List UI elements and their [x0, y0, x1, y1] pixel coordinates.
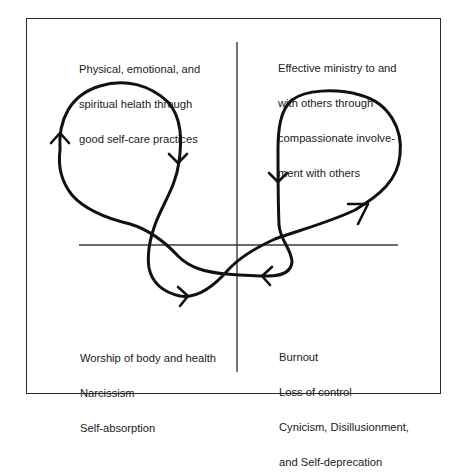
label-line: ment with others — [278, 168, 397, 180]
label-line: with others through — [278, 98, 397, 110]
quadrant-bottom-right-label: Burnout Loss of control Cynicism, Disill… — [279, 329, 409, 472]
label-line: compassionate involve- — [278, 133, 397, 145]
label-line: Burnout — [279, 352, 409, 364]
label-line: Worship of body and health — [80, 353, 216, 365]
label-line: Cynicism, Disillusionment, — [279, 422, 409, 434]
quadrant-top-left-label: Physical, emotional, and spiritual helat… — [79, 41, 200, 157]
label-line: Physical, emotional, and — [79, 64, 200, 76]
label-line: spiritual helath through — [79, 99, 200, 111]
quadrant-bottom-left-label: Worship of body and health Narcissism Se… — [80, 330, 216, 446]
label-line: Loss of control — [279, 387, 409, 399]
label-line: Self-absorption — [80, 423, 216, 435]
label-line: good self-care practices — [79, 134, 200, 146]
label-line: and Self-deprecation — [279, 457, 409, 469]
label-line: Narcissism — [80, 388, 216, 400]
quadrant-top-right-label: Effective ministry to and with others th… — [278, 40, 397, 191]
label-line: Effective ministry to and — [278, 63, 397, 75]
